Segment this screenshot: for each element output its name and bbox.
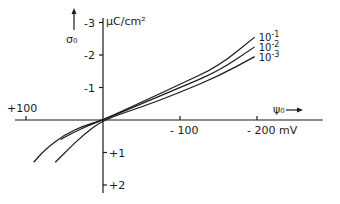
y-tick-label: -2 bbox=[84, 49, 95, 62]
x-tick-label: - 100 bbox=[170, 124, 198, 137]
x-axis-label: ψ₀ bbox=[273, 103, 303, 116]
axis-tick-labels: +100- 100- 200 mV-3-2-1+1+2 bbox=[7, 17, 298, 193]
y-axis-unit: μC/cm² bbox=[106, 15, 146, 28]
y-axis-symbol: σ₀ bbox=[66, 33, 78, 46]
y-tick-label: +2 bbox=[109, 179, 125, 192]
chart-canvas: +100- 100- 200 mV-3-2-1+1+2 10-110-210-3… bbox=[0, 0, 340, 204]
data-curves bbox=[34, 37, 255, 162]
up-arrow-head-icon bbox=[72, 8, 77, 14]
x-tick-label: - 200 mV bbox=[247, 124, 298, 137]
curve-minus3 bbox=[55, 57, 254, 163]
series-labels: 10-110-210-3 bbox=[259, 30, 280, 63]
curve-minus1 bbox=[34, 37, 255, 162]
x-axis-symbol: ψ₀ bbox=[273, 103, 285, 116]
y-tick-label: -1 bbox=[84, 82, 95, 95]
right-arrow-head-icon bbox=[297, 108, 303, 113]
x-tick-label: +100 bbox=[7, 102, 37, 115]
y-axis-label: σ₀ μC/cm² bbox=[66, 8, 146, 46]
series-label: 10-3 bbox=[259, 50, 280, 63]
y-tick-label: +1 bbox=[109, 147, 125, 160]
y-tick-label: -3 bbox=[84, 17, 95, 30]
